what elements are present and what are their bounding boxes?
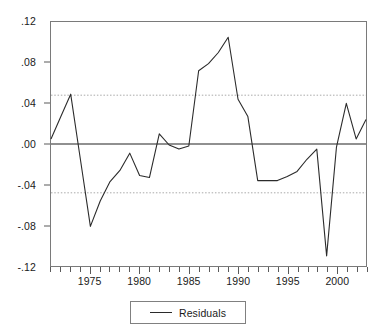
x-tick-label: 1985: [177, 275, 201, 287]
x-tick-mark: [199, 267, 200, 272]
x-tick-mark: [347, 267, 348, 272]
x-tick-mark: [179, 267, 180, 272]
x-tick-mark: [308, 267, 309, 272]
x-tick-mark: [50, 267, 51, 272]
x-tick-mark: [60, 267, 61, 272]
series-residuals: [51, 22, 366, 266]
x-tick-mark: [288, 267, 289, 274]
x-tick-mark: [367, 267, 368, 272]
legend-line-swatch: [150, 312, 172, 313]
x-tick-mark: [189, 267, 190, 274]
x-tick-mark: [327, 267, 328, 272]
x-tick-mark: [209, 267, 210, 272]
x-tick-mark: [357, 267, 358, 272]
x-tick-mark: [248, 267, 249, 272]
legend-item-label: Residuals: [179, 307, 226, 319]
x-tick-label: 2000: [325, 275, 349, 287]
x-tick-mark: [100, 267, 101, 272]
x-tick-mark: [278, 267, 279, 272]
y-tick-label: .08: [21, 56, 36, 68]
y-axis: .12.08.04.00-.04-.08-.12: [0, 21, 44, 267]
x-tick-mark: [119, 267, 120, 272]
y-tick-label: -.08: [18, 220, 37, 232]
x-axis-ticks: [50, 267, 367, 274]
x-tick-mark: [298, 267, 299, 272]
x-tick-mark: [169, 267, 170, 272]
x-tick-mark: [70, 267, 71, 272]
x-tick-mark: [129, 267, 130, 272]
x-tick-label: 1990: [226, 275, 250, 287]
residuals-line-chart: .12.08.04.00-.04-.08-.12 197519801985199…: [0, 0, 375, 333]
x-tick-mark: [317, 267, 318, 272]
series-line-residuals: [51, 37, 366, 256]
x-tick-label: 1975: [78, 275, 102, 287]
y-tick-label: .00: [21, 138, 36, 150]
x-tick-mark: [149, 267, 150, 272]
x-tick-label: 1995: [276, 275, 300, 287]
x-tick-mark: [159, 267, 160, 272]
x-tick-mark: [139, 267, 140, 274]
x-axis: 197519801985199019952000: [50, 275, 367, 291]
y-tick-label: .04: [21, 97, 36, 109]
x-tick-mark: [90, 267, 91, 274]
x-tick-mark: [109, 267, 110, 272]
x-tick-mark: [218, 267, 219, 272]
x-tick-mark: [268, 267, 269, 272]
y-tick-label: -.12: [18, 261, 37, 273]
x-tick-mark: [228, 267, 229, 272]
x-tick-mark: [337, 267, 338, 274]
y-tick-label: .12: [21, 15, 36, 27]
x-tick-mark: [258, 267, 259, 272]
x-tick-label: 1980: [127, 275, 151, 287]
x-tick-mark: [80, 267, 81, 272]
y-tick-label: -.04: [18, 179, 37, 191]
x-tick-mark: [238, 267, 239, 274]
chart-legend: Residuals: [130, 301, 246, 324]
plot-area: [50, 21, 367, 267]
